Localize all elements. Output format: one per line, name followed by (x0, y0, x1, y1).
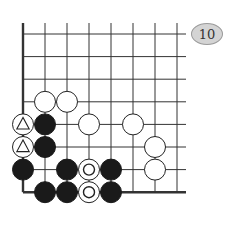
black-stone (101, 159, 122, 180)
white-stone (79, 114, 100, 135)
black-stone (35, 137, 56, 158)
white-stone (35, 91, 56, 112)
black-stone (35, 182, 56, 203)
white-stone (57, 91, 78, 112)
black-stone (13, 159, 34, 180)
black-stone (35, 114, 56, 135)
black-stone (57, 159, 78, 180)
white-stone (145, 159, 166, 180)
white-stone (79, 182, 100, 203)
problem-number-badge: 10 (191, 23, 223, 45)
white-stone (79, 159, 100, 180)
white-stone (145, 137, 166, 158)
black-stone (101, 182, 122, 203)
white-stone (123, 114, 144, 135)
black-stone (57, 182, 78, 203)
